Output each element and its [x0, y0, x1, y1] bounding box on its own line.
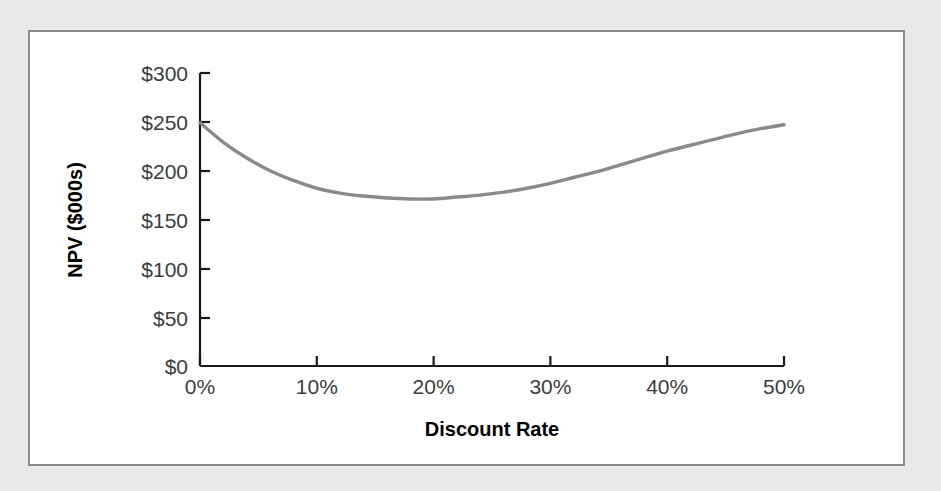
- npv-discount-rate-line-chart: $300 $250 $200 $150 $100 $50 $0 0% 10% 2…: [30, 32, 903, 464]
- y-tick-label-50: $50: [153, 307, 188, 330]
- x-tick-label-0: 0%: [185, 375, 215, 398]
- x-tick-label-40: 40%: [646, 375, 688, 398]
- x-tick-label-20: 20%: [413, 375, 455, 398]
- x-tick-label-50: 50%: [763, 375, 805, 398]
- npv-series-line: [200, 123, 784, 199]
- x-axis-title: Discount Rate: [425, 418, 559, 440]
- y-tick-label-200: $200: [141, 160, 188, 183]
- y-tick-label-100: $100: [141, 258, 188, 281]
- x-tick-label-10: 10%: [296, 375, 338, 398]
- chart-panel: $300 $250 $200 $150 $100 $50 $0 0% 10% 2…: [28, 30, 905, 466]
- y-axis-title: NPV ($000s): [64, 162, 86, 278]
- y-tick-label-300: $300: [141, 62, 188, 85]
- x-tick-label-30: 30%: [529, 375, 571, 398]
- y-tick-label-250: $250: [141, 111, 188, 134]
- figure-root: $300 $250 $200 $150 $100 $50 $0 0% 10% 2…: [0, 0, 941, 491]
- y-tick-label-150: $150: [141, 209, 188, 232]
